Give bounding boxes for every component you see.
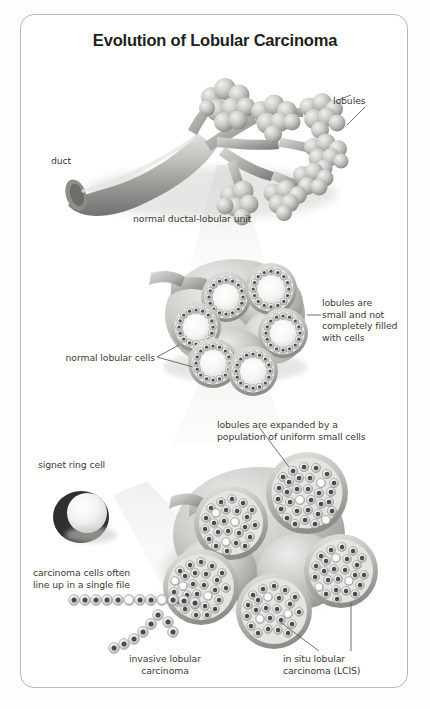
label-normal-lobular-cells: normal lobular cells <box>35 352 155 364</box>
label-single-file: carcinoma cells often line up in a singl… <box>33 567 130 590</box>
label-lobules-expanded: lobules are expanded by a population of … <box>217 419 366 442</box>
label-in-situ-lobular-carcinoma: in situ lobular carcinoma (LCIS) <box>283 653 360 676</box>
stage-normal-ductal-lobular-unit <box>62 78 365 226</box>
label-lobules-small: lobules are small and not completely fil… <box>322 297 397 343</box>
label-invasive-lobular-carcinoma: invasive lobular carcinoma <box>103 653 227 676</box>
label-signet-ring-cell: signet ring cell <box>38 459 105 471</box>
label-duct: duct <box>51 155 71 167</box>
stage-normal-lobular-cells <box>149 259 321 396</box>
signet-ring-cell-illustration <box>53 491 117 543</box>
label-normal-ductal-lobular-unit: normal ductal-lobular unit <box>133 213 251 225</box>
label-lobules: lobules <box>333 95 366 107</box>
figure-panel: Evolution of Lobular Carcinoma <box>20 14 408 688</box>
single-file-cell-chain <box>69 595 201 654</box>
stage-lobular-carcinoma-in-situ <box>161 427 378 651</box>
page-title: Evolution of Lobular Carcinoma <box>21 31 408 50</box>
